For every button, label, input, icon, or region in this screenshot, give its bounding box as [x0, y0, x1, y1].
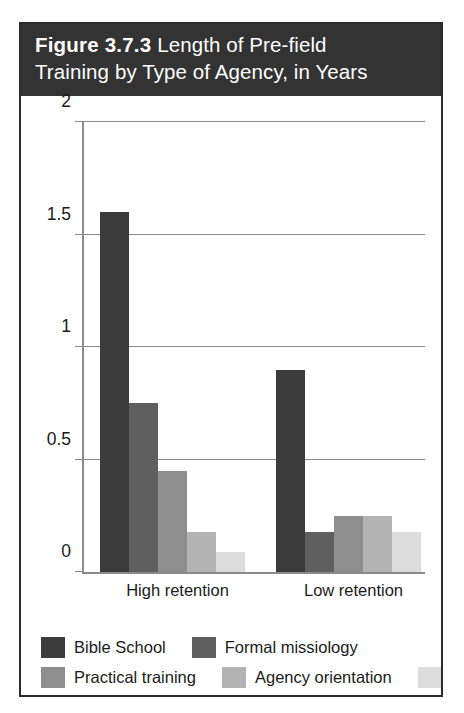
legend-label: Bible School: [74, 638, 166, 657]
tick-mark-1: [75, 346, 84, 347]
figure-panel: Figure 3.7.3 Length of Pre-field Trainin…: [19, 22, 443, 697]
y-axis-label-0: 0: [61, 541, 71, 562]
bar: [187, 532, 216, 573]
bar: [216, 552, 245, 572]
bar: [276, 370, 305, 573]
legend-row-1: Bible School Formal missiology: [41, 632, 441, 662]
legend-item-bible-school[interactable]: Bible School: [41, 637, 166, 658]
legend-item-agency-orientation[interactable]: Agency orientation: [222, 667, 392, 688]
legend-swatch-icon: [222, 667, 246, 688]
legend-swatch-icon: [192, 637, 216, 658]
chart-legend: Bible School Formal missiology Practical…: [21, 621, 441, 697]
tick-mark-1-5: [75, 234, 84, 235]
figure-title-line-2: Training by Type of Agency, in Years: [35, 58, 429, 85]
bar: [158, 471, 187, 572]
tick-mark-2: [75, 121, 84, 122]
category-label-low-retention: Low retention: [241, 581, 443, 600]
legend-swatch-icon: [418, 667, 442, 688]
y-axis-label-1-5: 1.5: [47, 203, 71, 224]
chart-area: 2 1.5 1 0.5 0 High retention Low retenti…: [21, 96, 441, 621]
figure-title-line-1: Figure 3.7.3 Length of Pre-field: [35, 31, 429, 58]
plot-region: 2 1.5 1 0.5 0 High retention Low retenti…: [82, 122, 425, 574]
figure-title-banner: Figure 3.7.3 Length of Pre-field Trainin…: [21, 24, 441, 96]
legend-label: Agency orientation: [255, 668, 392, 687]
legend-swatch-icon: [41, 637, 65, 658]
bar: [334, 516, 363, 572]
legend-item-intern[interactable]: Intern: [418, 667, 443, 688]
legend-item-practical-training[interactable]: Practical training: [41, 667, 196, 688]
bar-group-high-retention: [100, 122, 245, 572]
legend-label: Formal missiology: [225, 638, 358, 657]
figure-number: Figure 3.7.3: [35, 33, 151, 56]
y-axis-label-1: 1: [61, 316, 71, 337]
legend-swatch-icon: [41, 667, 65, 688]
bar: [100, 212, 129, 572]
legend-row-2: Practical training Agency orientation In…: [41, 662, 441, 692]
legend-item-formal-missiology[interactable]: Formal missiology: [192, 637, 358, 658]
bar: [129, 403, 158, 572]
figure-title-part-1: Length of Pre-field: [151, 33, 326, 56]
bar: [392, 532, 421, 573]
bar: [305, 532, 334, 573]
tick-mark-0-5: [75, 459, 84, 460]
y-axis-label-2: 2: [61, 91, 71, 112]
bar: [363, 516, 392, 572]
tick-mark-0: [75, 571, 84, 572]
y-axis-label-0-5: 0.5: [47, 428, 71, 449]
bar-group-low-retention: [276, 122, 421, 572]
legend-label: Practical training: [74, 668, 196, 687]
